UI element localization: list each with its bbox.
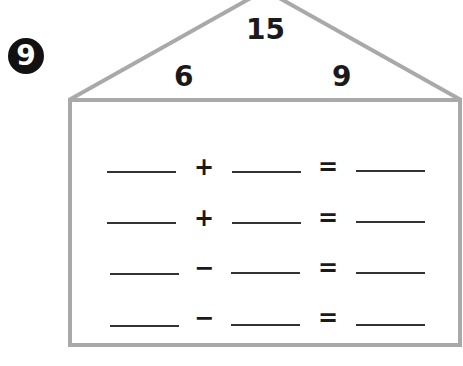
equals-sign: = <box>318 306 338 330</box>
equation-row-4: − = <box>0 308 463 338</box>
answer-blank-a[interactable] <box>107 222 176 224</box>
answer-blank-a[interactable] <box>110 325 179 327</box>
answer-blank-c[interactable] <box>356 272 425 274</box>
whole-number: 15 <box>246 16 285 44</box>
answer-blank-b[interactable] <box>231 272 300 274</box>
equation-row-1: + = <box>0 155 463 185</box>
answer-blank-b[interactable] <box>232 222 301 224</box>
equals-sign: = <box>318 256 338 280</box>
answer-blank-c[interactable] <box>356 324 425 326</box>
part-right-number: 9 <box>332 63 351 91</box>
equation-row-3: − = <box>0 256 463 286</box>
minus-operator: − <box>194 256 214 280</box>
equals-sign: = <box>318 206 338 230</box>
answer-blank-c[interactable] <box>356 170 425 172</box>
equation-row-2: + = <box>0 206 463 236</box>
equals-sign: = <box>318 155 338 179</box>
answer-blank-a[interactable] <box>107 171 176 173</box>
answer-blank-a[interactable] <box>110 273 179 275</box>
plus-operator: + <box>194 206 214 230</box>
plus-operator: + <box>194 155 214 179</box>
minus-operator: − <box>194 306 214 330</box>
part-left-number: 6 <box>174 63 193 91</box>
answer-blank-b[interactable] <box>232 171 301 173</box>
answer-blank-c[interactable] <box>356 221 425 223</box>
answer-blank-b[interactable] <box>231 324 300 326</box>
